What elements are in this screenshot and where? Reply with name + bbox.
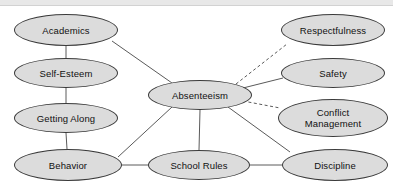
node-label-discipline: Discipline [310, 160, 360, 171]
node-respect[interactable]: Respectfulness [281, 14, 385, 46]
node-label-self_esteem: Self-Esteem [36, 68, 97, 79]
node-label-behavior: Behavior [45, 160, 91, 171]
node-label-conflict: Conflict Management [301, 107, 365, 129]
node-getting[interactable]: Getting Along [14, 103, 118, 133]
edge-academics-to-absenteeism [112, 41, 172, 83]
edge-absenteeism-to-conflict [243, 101, 280, 108]
node-behavior[interactable]: Behavior [14, 149, 122, 181]
node-label-absenteeism: Absenteeism [168, 90, 232, 101]
node-academics[interactable]: Academics [14, 14, 118, 46]
node-label-academics: Academics [38, 25, 93, 36]
node-discipline[interactable]: Discipline [282, 149, 388, 181]
edge-absenteeism-to-school [199, 110, 200, 150]
node-absenteeism[interactable]: Absenteeism [148, 80, 252, 110]
node-label-safety: Safety [315, 68, 351, 79]
node-conflict[interactable]: Conflict Management [278, 99, 388, 137]
edge-behavior-to-absenteeism [118, 107, 172, 157]
node-school[interactable]: School Rules [148, 150, 250, 180]
edge-absenteeism-to-respect [236, 44, 287, 84]
node-label-getting: Getting Along [33, 113, 99, 124]
diagram-canvas: AcademicsSelf-EsteemGetting AlongBehavio… [0, 0, 393, 184]
node-safety[interactable]: Safety [281, 58, 385, 88]
node-self_esteem[interactable]: Self-Esteem [14, 58, 118, 88]
edge-absenteeism-to-safety [243, 78, 283, 88]
node-label-school: School Rules [166, 160, 231, 171]
edge-getting-to-behavior [66, 133, 67, 149]
node-label-respect: Respectfulness [296, 25, 370, 36]
